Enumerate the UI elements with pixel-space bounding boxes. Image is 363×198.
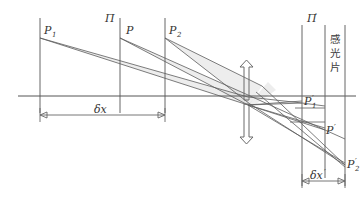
label-image-p2-prime-group: P 2 ′	[346, 156, 360, 173]
label-dimension-delta-x-prime-group: δx ′	[310, 167, 326, 182]
label-image-p1-prime-subscript: 1	[312, 102, 316, 110]
label-film-char-1: 感	[330, 33, 341, 45]
lens-arrow-down	[240, 104, 253, 144]
label-object-p2-subscript: 2	[176, 31, 182, 39]
ray-p2-lower	[165, 38, 250, 104]
label-object-p1: P	[43, 24, 52, 37]
label-object-p: P	[125, 24, 134, 37]
dimension-delta-x-prime-group	[302, 174, 345, 188]
label-image-p-prime-mark: ′	[334, 122, 336, 131]
label-image-p1-prime-mark: ′	[312, 93, 314, 102]
label-image-p1-prime: P	[303, 95, 312, 108]
optical-ray-diagram-figure: P 1 Π P P 2 Π ′ 感 光 片 P 1 ′	[0, 0, 363, 198]
label-film-char-3: 片	[330, 61, 340, 73]
label-dimension-delta-x: δx	[94, 103, 108, 116]
label-object-p2: P	[168, 24, 177, 37]
label-object-p1-subscript: 1	[52, 31, 56, 39]
image-point-tie-lines	[290, 108, 325, 122]
label-object-plane-pi: Π	[104, 12, 115, 25]
label-dimension-delta-x-prime-mark: ′	[324, 167, 326, 176]
label-film-text-group: 感 光 片	[330, 33, 341, 73]
label-image-p-prime-group: P ′	[325, 122, 336, 137]
label-dimension-delta-x-prime: δx	[310, 169, 324, 182]
label-object-p2-group: P 2	[168, 24, 182, 39]
label-image-plane-pi-prime-mark: ′	[315, 11, 317, 20]
label-image-p2-prime: P	[346, 158, 355, 171]
object-planes-group	[40, 18, 165, 113]
label-image-p2-prime-mark: ′	[355, 156, 357, 165]
label-image-plane-pi-prime-group: Π ′	[306, 11, 317, 25]
label-image-p-prime: P	[325, 124, 334, 137]
diagram-canvas: P 1 Π P P 2 Π ′ 感 光 片 P 1 ′	[0, 0, 363, 198]
label-film-char-2: 光	[330, 47, 341, 59]
label-image-p2-prime-subscript: 2	[354, 165, 360, 173]
label-object-p1-group: P 1	[43, 24, 56, 39]
